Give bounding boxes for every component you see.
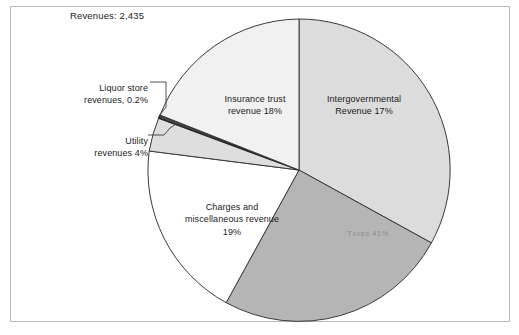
pie-label-charges-and-miscellaneous-revenue-text: Charges and miscellaneous revenue 19% — [185, 202, 279, 237]
pie-label-utility-revenues-text: Utility revenues 4% — [94, 136, 148, 159]
pie-label-liquor-store-revenues-text: Liquor store revenues, 0.2% — [84, 83, 148, 106]
pie-label-utility-revenues: Utility revenues 4% — [48, 122, 148, 160]
pie-label-intergovernmental-revenue-wrapper: Insurance trust revenue 18% — [203, 80, 307, 118]
leader-line-liquor-store-revenues — [150, 82, 166, 115]
pie-svg — [0, 0, 519, 335]
pie-chart-figure: Revenues: 2,435 Insurance trust revenue … — [0, 0, 519, 335]
pie-label-insurance-trust-revenue: Insurance trust revenue 18% — [224, 94, 285, 117]
pie-label-intergovernmental-revenue: Intergovernmental Revenue 17% — [309, 80, 419, 118]
pie-label-taxes: Taxes 41% — [330, 215, 406, 240]
pie-label-liquor-store-revenues: Liquor store revenues, 0.2% — [48, 69, 148, 107]
pie-slices — [148, 19, 450, 321]
page-bottom-edge — [0, 330, 519, 335]
pie-label-taxes-text: Taxes 41% — [347, 229, 389, 238]
pie-label-charges-and-miscellaneous-revenue: Charges and miscellaneous revenue 19% — [168, 188, 296, 238]
pie-label-intergovernmental-revenue-text: Intergovernmental Revenue 17% — [327, 94, 401, 117]
